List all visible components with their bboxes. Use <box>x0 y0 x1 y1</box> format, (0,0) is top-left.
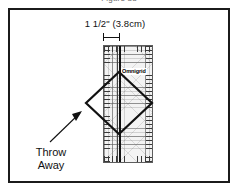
ruler-guide-line <box>117 46 118 162</box>
ruler-left-ticks <box>104 46 110 162</box>
figure-screenshot: Figure 33 1 1/2" (3.8cm) Omnigrid Throw … <box>0 0 238 191</box>
ruler-top-ticks <box>104 46 152 52</box>
ruler-brand-label: Omnigrid <box>121 68 147 75</box>
throw-away-annotation: Throw Away <box>20 146 82 172</box>
ruler-bottom-ticks <box>104 156 152 162</box>
measurement-bracket <box>103 33 120 41</box>
throw-away-line-2: Away <box>20 159 82 172</box>
throw-away-line-1: Throw <box>20 146 82 159</box>
measurement-label: 1 1/2" (3.8cm) <box>60 18 170 29</box>
bracket-bar <box>103 37 120 38</box>
ruler-diagonal-guides-icon <box>104 46 152 162</box>
omnigrid-ruler: Omnigrid <box>103 45 153 163</box>
bracket-right-tick <box>119 33 120 41</box>
ruler-right-ticks <box>146 46 152 162</box>
ruler-center-line <box>119 46 121 162</box>
figure-caption: Figure 33 <box>0 0 238 3</box>
